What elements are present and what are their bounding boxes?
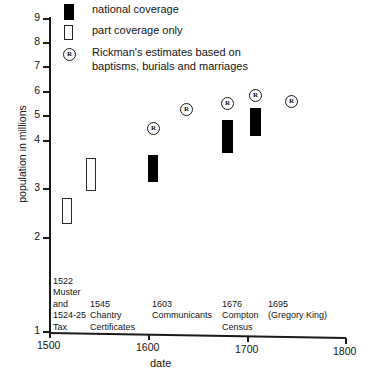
x-tick-label-1500: 1500 [37, 340, 60, 351]
data-bar-1676-national-coverage [222, 120, 233, 153]
chart-legend: national coverage part coverage only R R… [64, 3, 354, 64]
rickman-marker-1695: R [249, 89, 262, 102]
y-tick-label-5: 5 [28, 109, 40, 119]
population-chart: national coverage part coverage only R R… [0, 0, 374, 378]
x-tick-label-1600: 1600 [136, 342, 159, 353]
data-bar-1603-national-coverage [148, 155, 158, 182]
rickman-marker-1731: R [285, 95, 298, 108]
rickman-marker-1636: R [180, 103, 193, 116]
y-axis-line [49, 17, 51, 333]
y-tick-5 [43, 115, 50, 117]
x-tick-label-1700: 1700 [235, 344, 258, 355]
legend-label-rickman: Rickman's estimates based on baptisms, b… [92, 46, 248, 73]
y-tick-4 [43, 140, 50, 142]
y-tick-label-8: 8 [28, 36, 40, 46]
r-circle-icon: R [63, 48, 76, 61]
source-note-1545: 1545 Chantry Certificates [90, 299, 144, 333]
legend-item-part-coverage: part coverage only [64, 24, 354, 39]
y-tick-7 [43, 66, 50, 68]
y-tick-8 [43, 42, 50, 44]
y-tick-label-2: 2 [28, 231, 40, 241]
y-tick-label-4: 4 [28, 134, 40, 144]
x-tick-1600 [148, 334, 150, 340]
legend-label-part: part coverage only [92, 24, 183, 38]
data-bar-1545-part-coverage [86, 158, 96, 191]
y-tick-6 [43, 91, 50, 93]
source-note-1603: 1603 Communicants [152, 299, 222, 322]
rickman-marker-1676: R [221, 97, 234, 110]
legend-label-national: national coverage [92, 3, 179, 17]
x-tick-1500 [49, 332, 51, 338]
y-tick-label-3: 3 [28, 182, 40, 192]
y-axis-title: population in millions [16, 94, 28, 214]
x-tick-1700 [247, 336, 249, 342]
x-tick-label-1800: 1800 [333, 346, 356, 357]
open-bar-icon [64, 25, 73, 40]
y-tick-3 [43, 188, 50, 190]
legend-item-rickman-estimates: R Rickman's estimates based on baptisms,… [64, 46, 354, 61]
source-note-1522: 1522 Muster and 1524-25 Tax [53, 276, 93, 333]
source-note-1676: 1676 Compton Census [222, 299, 270, 333]
y-tick-label-1: 1 [28, 325, 40, 335]
source-note-1695: 1695 (Gregory King) [268, 299, 346, 322]
y-tick-label-7: 7 [28, 60, 40, 70]
data-bar-1522-part-coverage [62, 198, 72, 224]
data-bar-1695-national-coverage [250, 108, 261, 136]
legend-item-national-coverage: national coverage [64, 3, 354, 18]
x-axis-title: date [150, 357, 171, 369]
y-tick-label-9: 9 [28, 12, 40, 22]
x-tick-1800 [345, 338, 347, 344]
y-tick-label-6: 6 [28, 85, 40, 95]
rickman-marker-1603: R [147, 122, 160, 135]
y-tick-9 [43, 18, 50, 20]
y-tick-2 [43, 237, 50, 239]
filled-bar-icon [64, 4, 74, 20]
